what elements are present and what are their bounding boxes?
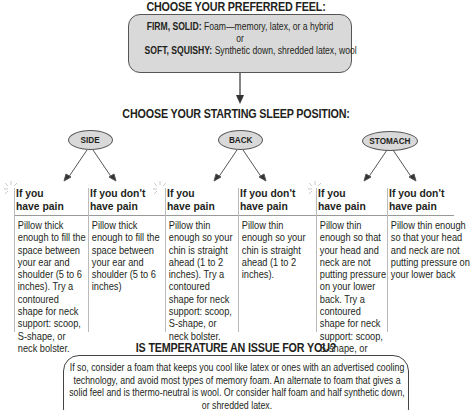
side-nopain-text: Pillow thick enough to fill the space be… xyxy=(90,215,162,293)
back-pain-column: If youhave pain Pillow thin enough so yo… xyxy=(167,187,238,342)
temperature-heading: IS TEMPERATURE AN ISSUE FOR YOU? xyxy=(33,341,439,355)
divider xyxy=(238,188,239,332)
back-label: BACK xyxy=(229,131,253,149)
divider xyxy=(14,188,15,332)
back-pain-text: Pillow thin enough so your chin is strai… xyxy=(167,215,237,342)
feel-or: or xyxy=(145,33,336,45)
side-label: SIDE xyxy=(81,131,100,149)
side-nopain-heading: If you don'thave pain xyxy=(90,187,157,215)
position-oval-back: BACK xyxy=(218,130,263,150)
position-oval-side: SIDE xyxy=(68,130,113,150)
divider xyxy=(88,188,89,332)
side-pain-column: If youhave pain Pillow thick enough to f… xyxy=(16,187,88,354)
back-nopain-column: If you don'thave pain Pillow thin enough… xyxy=(240,187,315,280)
side-pain-heading: If youhave pain xyxy=(16,187,81,215)
stomach-nopain-heading: If you don'thave pain xyxy=(389,187,464,215)
stomach-nopain-text: Pillow thin enough so that your head and… xyxy=(389,215,472,280)
soft-label: SOFT, SQUISHY: xyxy=(145,45,213,56)
side-nopain-column: If you don'thave pain Pillow thick enoug… xyxy=(90,187,164,293)
stomach-nopain-column: If you don'thave pain Pillow thin enough… xyxy=(389,187,472,280)
position-heading: CHOOSE YOUR STARTING SLEEP POSITION: xyxy=(33,107,439,121)
back-pain-heading: If youhave pain xyxy=(167,187,231,215)
divider xyxy=(165,188,166,332)
stomach-pain-heading: If youhave pain xyxy=(318,187,380,215)
branch-arrows xyxy=(0,148,472,186)
divider xyxy=(316,188,317,332)
side-pain-text: Pillow thick enough to fill the space be… xyxy=(16,215,86,354)
back-nopain-heading: If you don'thave pain xyxy=(240,187,308,215)
firm-text: Foam—memory, latex, or a hybrid xyxy=(202,21,334,32)
feel-heading: CHOOSE YOUR PREFERRED FEEL: xyxy=(33,0,439,14)
feel-box: FIRM, SOLID: Foam—memory, latex, or a hy… xyxy=(128,14,352,73)
temperature-box: If so, consider a foam that keeps you co… xyxy=(63,355,409,410)
temperature-text: If so, consider a foam that keeps you co… xyxy=(65,362,408,410)
back-nopain-text: Pillow thin enough so your chin is strai… xyxy=(240,215,312,280)
stomach-pain-column: If youhave pain Pillow thin enough so th… xyxy=(318,187,387,367)
feel-firm-line: FIRM, SOLID: Foam—memory, latex, or a hy… xyxy=(145,21,336,33)
down-arrow-icon xyxy=(234,73,246,105)
firm-label: FIRM, SOLID: xyxy=(147,21,202,32)
soft-text: Synthetic down, shredded latex, wool xyxy=(212,45,356,56)
feel-soft-line: SOFT, SQUISHY: Synthetic down, shredded … xyxy=(145,45,336,57)
